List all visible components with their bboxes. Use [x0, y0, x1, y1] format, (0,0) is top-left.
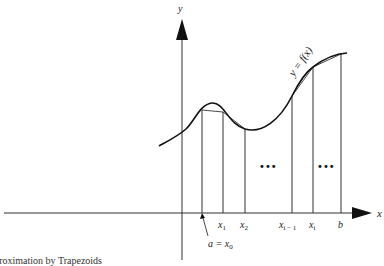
function-curve	[159, 53, 347, 146]
tick-label-b: b	[338, 219, 343, 230]
tick-label-x1: x1	[217, 219, 226, 232]
x-axis: x	[4, 207, 382, 219]
tick-label-x2: x2	[239, 219, 248, 232]
tick-label-xi-minus-1: xi − 1	[278, 219, 297, 232]
start-label: a = x0	[208, 238, 233, 251]
tick-labels: x1 x2 xi − 1 xi b	[217, 219, 343, 232]
pointer-arrow-icon	[200, 213, 205, 219]
ellipsis-right: •••	[317, 161, 335, 172]
curve-label: y = f(x)	[285, 44, 315, 80]
y-axis-label: y	[177, 3, 183, 14]
start-point-annotation: a = x0	[200, 213, 233, 251]
partition-lines	[202, 54, 341, 213]
x-axis-label: x	[376, 207, 382, 219]
y-axis-arrow-icon	[176, 19, 188, 40]
x-axis-arrow-icon	[352, 207, 372, 219]
figure-caption: Approximation by Trapezoids	[0, 255, 102, 266]
ellipsis-left: •••	[259, 161, 277, 172]
tick-label-xi: xi	[308, 219, 315, 232]
